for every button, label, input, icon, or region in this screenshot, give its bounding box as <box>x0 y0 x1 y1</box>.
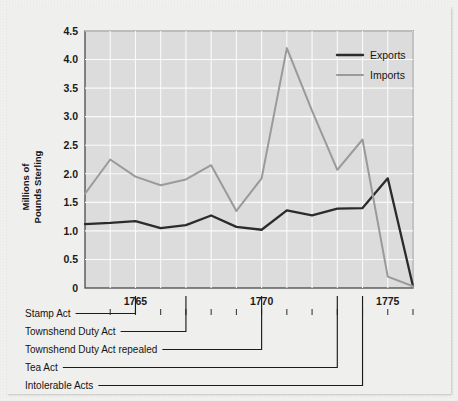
y-axis-title-line2: Pounds Sterling <box>32 150 43 223</box>
y-axis-tick-label: 4.5 <box>63 25 78 37</box>
annotation-leader-line <box>98 296 362 386</box>
y-axis-tick-labels: 00.51.01.52.02.53.03.54.04.5 <box>63 25 78 294</box>
line-chart: 00.51.01.52.02.53.03.54.04.5 17651770177… <box>7 7 451 394</box>
y-axis-tick-label: 0.5 <box>63 253 78 265</box>
legend-label-exports: Exports <box>370 49 406 61</box>
annotation-leader-line <box>162 296 261 350</box>
y-axis-tick-label: 1.5 <box>63 196 78 208</box>
x-axis-tick-label: 1775 <box>376 295 400 307</box>
y-axis-tick-label: 2.0 <box>63 168 78 180</box>
plot-area <box>85 31 413 288</box>
y-axis-title-line1: Millions of <box>20 163 31 211</box>
legend-label-imports: Imports <box>370 69 405 81</box>
y-axis-tick-label: 3.0 <box>63 110 78 122</box>
chart-card: 00.51.01.52.02.53.03.54.04.5 17651770177… <box>7 7 451 394</box>
figure-background: 00.51.01.52.02.53.03.54.04.5 17651770177… <box>0 0 458 401</box>
annotation-label: Townshend Duty Act <box>25 326 116 337</box>
annotation-label: Townshend Duty Act repealed <box>25 344 157 355</box>
plot-frame <box>85 31 413 288</box>
y-axis-title: Millions of Pounds Sterling <box>20 150 43 223</box>
annotation-label: Tea Act <box>25 362 58 373</box>
y-axis-tick-label: 1.0 <box>63 225 78 237</box>
y-axis-tick-label: 3.5 <box>63 82 78 94</box>
y-axis-tick-label: 4.0 <box>63 53 78 65</box>
y-axis-tick-label: 2.5 <box>63 139 78 151</box>
annotation-label: Stamp Act <box>25 308 71 319</box>
y-axis-tick-label: 0 <box>72 282 78 294</box>
annotation-label: Intolerable Acts <box>25 380 93 391</box>
